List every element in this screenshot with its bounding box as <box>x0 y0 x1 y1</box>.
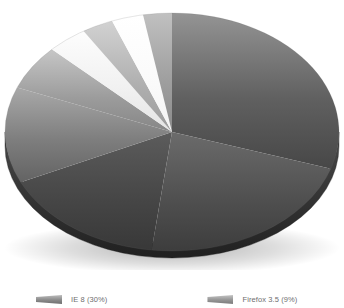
legend-item-firefox35[interactable]: Firefox 3.5 (9%) <box>207 292 344 308</box>
chart-legend: IE 8 (30%) Firefox 3.5 (9%) <box>0 292 344 308</box>
pie-chart-plot-area <box>0 0 344 270</box>
legend-swatch-ie8 <box>36 295 62 304</box>
pie-slices <box>5 13 339 251</box>
legend-item-ie8[interactable]: IE 8 (30%) <box>36 292 163 308</box>
pie-chart-svg <box>0 0 344 270</box>
legend-label-ie8: IE 8 (30%) <box>71 294 107 305</box>
legend-swatch-firefox35 <box>207 295 233 304</box>
legend-label-firefox35: Firefox 3.5 (9%) <box>242 294 297 305</box>
pie-chart-widget: IE 8 (30%) Firefox 3.5 (9%) <box>0 0 344 308</box>
